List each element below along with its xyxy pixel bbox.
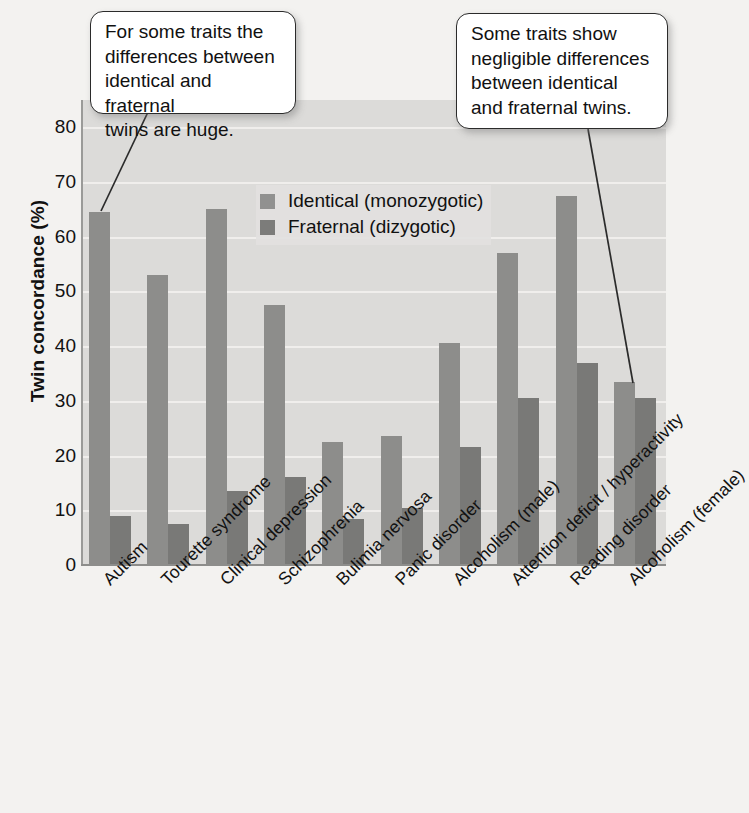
legend-item-identical: Identical (monozygotic) <box>260 188 483 214</box>
legend: Identical (monozygotic) Fraternal (dizyg… <box>256 185 491 245</box>
callout-left-line3: identical and fraternal <box>105 69 283 118</box>
legend-item-fraternal: Fraternal (dizygotic) <box>260 214 483 240</box>
legend-swatch-identical-icon <box>260 194 275 209</box>
callout-right-line2: negligible differences <box>471 47 655 72</box>
callout-left-line2: differences between <box>105 45 283 70</box>
callout-right-line4: and fraternal twins. <box>471 96 655 121</box>
callout-left-line1: For some traits the <box>105 20 283 45</box>
callout-left: For some traits the differences between … <box>90 11 296 114</box>
callout-right-line1: Some traits show <box>471 22 655 47</box>
legend-label-identical: Identical (monozygotic) <box>288 190 483 212</box>
x-label: Alcoholism (male) <box>449 475 563 589</box>
callout-right-line3: between identical <box>471 71 655 96</box>
x-label: Autism <box>99 537 152 590</box>
x-label: Reading disorder <box>566 480 676 590</box>
callout-right: Some traits show negligible differences … <box>456 13 668 129</box>
callout-left-line4: twins are huge. <box>105 118 283 143</box>
legend-label-fraternal: Fraternal (dizygotic) <box>288 216 456 238</box>
legend-swatch-fraternal-icon <box>260 220 275 235</box>
x-label: Tourette syndrome <box>157 471 276 590</box>
